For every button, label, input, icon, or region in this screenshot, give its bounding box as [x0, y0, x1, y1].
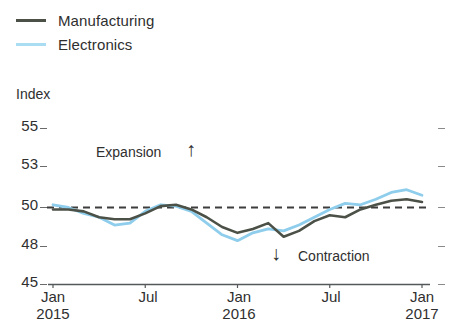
- chart-plot-area: [0, 0, 457, 330]
- chart-figure: Manufacturing Electronics Index 55 53 50…: [0, 0, 457, 330]
- series-line-manufacturing: [53, 199, 422, 236]
- series-group: [47, 190, 430, 288]
